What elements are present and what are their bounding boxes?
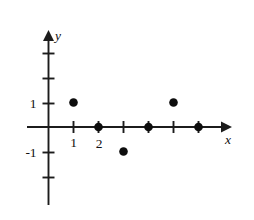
y-tick-label-1: 1 [30, 96, 37, 111]
y-axis-group [43, 30, 55, 205]
x-tick-label-2: 2 [96, 136, 103, 151]
scatter-plot-svg: 1 2 1 -1 x y [0, 0, 254, 220]
data-point [69, 98, 78, 107]
x-axis-arrowhead [221, 122, 232, 133]
y-tick-label-neg1: -1 [25, 145, 36, 160]
x-tick-label-1: 1 [70, 135, 77, 150]
data-point [119, 147, 128, 156]
data-point [94, 123, 103, 132]
coordinate-plane-figure: 1 2 1 -1 x y [0, 0, 254, 220]
data-point [194, 123, 203, 132]
y-axis-arrowhead [43, 30, 54, 41]
data-point [144, 123, 153, 132]
data-point [169, 98, 178, 107]
x-axis-label: x [224, 132, 231, 147]
y-axis-label: y [53, 28, 61, 43]
